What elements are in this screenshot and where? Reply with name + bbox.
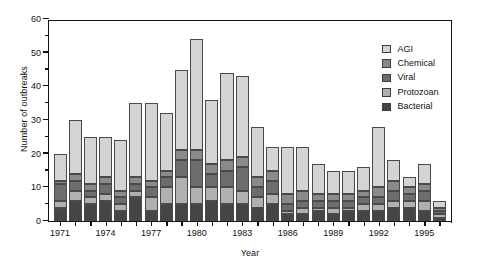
bar-segment-bacterial — [372, 211, 385, 221]
bar-segment-chemical — [54, 181, 67, 184]
bar-segment-bacterial — [220, 204, 233, 221]
bar-segment-chemical — [403, 187, 416, 194]
bar-segment-viral — [251, 187, 264, 197]
bar-segment-bacterial — [296, 214, 309, 221]
x-axis-tick — [151, 221, 152, 226]
bar-segment-agi — [129, 103, 142, 177]
x-axis-tick-label: 1983 — [232, 229, 252, 238]
bar-1971 — [54, 154, 67, 221]
bar-1977 — [145, 103, 158, 221]
bar-1984 — [251, 127, 264, 221]
bar-1996 — [433, 201, 446, 221]
bar-segment-agi — [145, 103, 158, 180]
bar-segment-agi — [220, 73, 233, 161]
x-axis-tick — [318, 221, 319, 226]
legend-item-label: Protozoan — [398, 88, 439, 97]
y-axis-major-tick — [43, 152, 49, 153]
bar-segment-protozoan — [145, 197, 158, 210]
bar-segment-protozoan — [433, 214, 446, 217]
plot-area: 0102030405060 19711974197719801983198619… — [48, 20, 452, 222]
bar-segment-agi — [236, 76, 249, 157]
bar-1990 — [342, 171, 355, 222]
bar-segment-viral — [220, 171, 233, 188]
bar-1983 — [236, 76, 249, 221]
y-axis-title: Number of outbreaks — [19, 39, 29, 179]
bar-segment-bacterial — [387, 208, 400, 221]
bar-segment-chemical — [418, 184, 431, 191]
bar-1985 — [266, 147, 279, 221]
bar-segment-chemical — [69, 174, 82, 181]
bar-segment-bacterial — [129, 197, 142, 221]
bar-segment-protozoan — [175, 177, 188, 204]
bar-segment-agi — [190, 39, 203, 150]
bar-segment-agi — [160, 113, 173, 170]
x-axis-tick — [379, 221, 380, 226]
bar-segment-viral — [129, 184, 142, 191]
x-axis-tick — [394, 221, 395, 226]
bar-segment-viral — [387, 191, 400, 201]
bar-segment-protozoan — [114, 204, 127, 211]
x-axis-tick — [121, 221, 122, 226]
bar-segment-protozoan — [387, 201, 400, 208]
y-axis-minor-tick — [45, 35, 49, 36]
bar-segment-protozoan — [69, 191, 82, 201]
bar-segment-bacterial — [251, 208, 264, 221]
bar-1989 — [327, 171, 340, 222]
legend-swatch-icon — [382, 45, 391, 54]
x-axis-title: Year — [48, 248, 452, 258]
bar-segment-bacterial — [99, 201, 112, 221]
legend-item-protozoan: Protozoan — [382, 85, 439, 99]
bar-segment-viral — [418, 191, 431, 201]
x-axis-tick — [227, 221, 228, 226]
y-axis-minor-tick — [45, 102, 49, 103]
bar-segment-protozoan — [266, 194, 279, 204]
bar-segment-viral — [296, 201, 309, 208]
bar-1982 — [220, 73, 233, 221]
bar-segment-chemical — [160, 171, 173, 178]
bar-segment-chemical — [251, 177, 264, 187]
legend-item-chemical: Chemical — [382, 56, 439, 70]
y-axis-major-tick — [43, 51, 49, 52]
bar-segment-bacterial — [418, 211, 431, 221]
bar-segment-chemical — [190, 150, 203, 160]
bar-segment-protozoan — [372, 204, 385, 211]
bar-segment-viral — [312, 201, 325, 208]
bar-1980 — [190, 39, 203, 221]
bar-segment-protozoan — [342, 208, 355, 211]
bar-segment-protozoan — [190, 187, 203, 204]
legend-item-label: AGI — [398, 45, 414, 54]
bar-segment-agi — [175, 70, 188, 151]
bar-segment-bacterial — [175, 204, 188, 221]
bar-segment-protozoan — [220, 187, 233, 204]
bar-segment-protozoan — [403, 201, 416, 208]
bar-segment-viral — [160, 177, 173, 187]
bar-segment-chemical — [220, 160, 233, 170]
bar-segment-chemical — [327, 194, 340, 201]
bar-segment-bacterial — [114, 211, 127, 221]
bar-segment-bacterial — [205, 201, 218, 221]
bar-segment-bacterial — [145, 211, 158, 221]
legend-item-label: Viral — [398, 73, 416, 82]
bar-segment-bacterial — [190, 204, 203, 221]
bar-segment-agi — [372, 127, 385, 188]
bar-segment-protozoan — [251, 197, 264, 207]
bar-segment-bacterial — [403, 208, 416, 221]
bar-segment-agi — [418, 164, 431, 184]
bar-segment-agi — [342, 171, 355, 195]
y-axis-major-tick — [43, 220, 49, 221]
legend: AGIChemicalViralProtozoanBacterial — [382, 42, 439, 114]
bar-1991 — [357, 167, 370, 221]
bar-segment-protozoan — [357, 204, 370, 211]
bar-1973 — [84, 137, 97, 221]
y-axis-major-tick — [43, 119, 49, 120]
legend-item-label: Chemical — [398, 59, 436, 68]
bar-segment-agi — [114, 140, 127, 191]
x-axis-tick — [166, 221, 167, 226]
bar-segment-protozoan — [281, 211, 294, 214]
x-axis-tick — [60, 221, 61, 226]
bar-segment-protozoan — [418, 201, 431, 211]
x-axis-tick — [242, 221, 243, 226]
bar-1994 — [403, 177, 416, 221]
legend-swatch-icon — [382, 88, 391, 97]
legend-swatch-icon — [382, 74, 391, 83]
